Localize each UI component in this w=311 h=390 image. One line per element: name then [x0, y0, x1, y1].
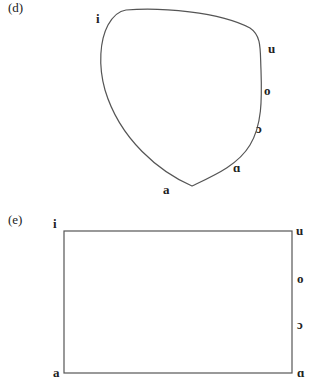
- vowel-o: o: [264, 84, 271, 97]
- vowel-o: o: [297, 272, 304, 285]
- vowel-u: u: [296, 224, 303, 237]
- panel-label-d: (d): [8, 0, 23, 16]
- vowel-space-rectangle: [64, 231, 292, 373]
- vowel-u: u: [268, 42, 275, 55]
- vowel-diagrams: [0, 0, 311, 390]
- panel-label-e: (e): [8, 212, 22, 228]
- vowel-open-o: ɔ: [297, 318, 303, 331]
- vowel-alpha: ɑ: [297, 366, 304, 379]
- vowel-open-o: ɔ: [256, 122, 262, 135]
- vowel-alpha: ɑ: [233, 161, 240, 174]
- vowel-i: i: [96, 12, 100, 25]
- vowel-a: a: [53, 366, 60, 379]
- vowel-a: a: [163, 183, 170, 196]
- vowel-i: i: [53, 217, 57, 230]
